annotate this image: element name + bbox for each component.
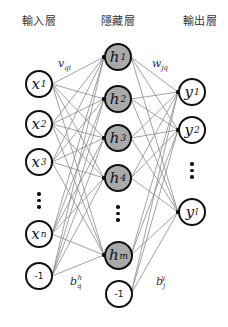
hidden-node-h2: h2 bbox=[104, 85, 132, 113]
node-subscript: 1 bbox=[194, 87, 200, 97]
weight-symbol: b bbox=[70, 275, 77, 288]
input-node-x1: x1 bbox=[25, 70, 53, 98]
hidden-node-h1: h1 bbox=[104, 43, 132, 71]
node-symbol: h bbox=[110, 92, 120, 107]
node-symbol: h bbox=[110, 131, 120, 146]
node-subscript: 3 bbox=[120, 133, 126, 143]
input-node-xn: xn bbox=[25, 220, 53, 248]
bias-label-hidden: bqh bbox=[70, 274, 82, 290]
node-symbol: x bbox=[31, 77, 39, 92]
hidden-node-h3: h3 bbox=[104, 124, 132, 152]
node-subscript: 3 bbox=[41, 157, 47, 167]
input-bias-node: -1 bbox=[25, 262, 53, 290]
bias-label: -1 bbox=[35, 272, 44, 281]
hidden-node-hm: hm bbox=[104, 241, 133, 270]
node-symbol: x bbox=[31, 117, 39, 132]
output-ellipsis bbox=[190, 162, 194, 179]
input-node-x3: x3 bbox=[25, 148, 53, 176]
node-subscript: m bbox=[120, 251, 129, 261]
neural-network-diagram: 輸入層 隱藏層 輸出層 x1 x2 x3 xn -1 h1 h2 h3 h4 h… bbox=[0, 0, 228, 327]
output-node-y1: y1 bbox=[178, 78, 206, 106]
weight-symbol: w bbox=[152, 57, 161, 70]
hidden-node-h4: h4 bbox=[104, 164, 132, 192]
weight-superscript: h bbox=[78, 274, 83, 282]
input-node-x2: x2 bbox=[25, 110, 53, 138]
node-subscript: 1 bbox=[41, 79, 47, 89]
bias-label-output: bjy bbox=[156, 274, 165, 290]
weight-superscript: y bbox=[161, 274, 165, 282]
hidden-bias-node: -1 bbox=[105, 280, 133, 308]
node-symbol: x bbox=[31, 155, 39, 170]
node-symbol: h bbox=[110, 171, 120, 186]
weight-label-v: vqi bbox=[58, 57, 71, 72]
weight-subscript: q bbox=[77, 282, 81, 290]
node-subscript: l bbox=[195, 207, 198, 217]
weight-subscript: qi bbox=[64, 64, 71, 72]
node-symbol: h bbox=[109, 248, 119, 263]
node-subscript: 4 bbox=[120, 173, 126, 183]
node-subscript: 2 bbox=[41, 119, 47, 129]
weight-subscript: jq bbox=[161, 64, 168, 72]
node-subscript: 1 bbox=[120, 52, 126, 62]
output-node-yl: yl bbox=[178, 198, 206, 226]
weight-label-w: wjq bbox=[152, 57, 168, 72]
bias-label: -1 bbox=[115, 290, 124, 299]
node-symbol: y bbox=[184, 85, 192, 100]
node-symbol: x bbox=[31, 227, 39, 242]
output-node-y2: y2 bbox=[178, 116, 206, 144]
hidden-layer-title: 隱藏層 bbox=[101, 12, 136, 28]
node-symbol: h bbox=[110, 50, 120, 65]
weight-subscript: j bbox=[163, 282, 165, 290]
output-layer-title: 輸出層 bbox=[183, 12, 218, 28]
node-subscript: 2 bbox=[194, 125, 200, 135]
node-symbol: y bbox=[186, 205, 194, 220]
hidden-ellipsis bbox=[116, 205, 120, 222]
input-layer-title: 輸入層 bbox=[22, 12, 57, 28]
node-symbol: y bbox=[184, 123, 192, 138]
node-subscript: 2 bbox=[120, 94, 126, 104]
node-subscript: n bbox=[41, 229, 47, 239]
input-ellipsis bbox=[37, 192, 41, 209]
